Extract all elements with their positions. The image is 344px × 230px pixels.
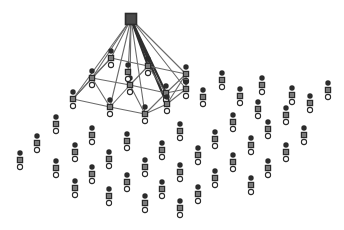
node-open-circle-marker bbox=[70, 103, 75, 108]
node-square-marker bbox=[195, 152, 200, 157]
node-open-circle-marker bbox=[142, 171, 147, 176]
node-open-circle-marker bbox=[125, 76, 130, 81]
node-filled-circle-marker bbox=[230, 112, 235, 117]
node-open-circle-marker bbox=[200, 101, 205, 106]
node-square-marker bbox=[289, 92, 294, 97]
node-open-circle-marker bbox=[145, 70, 150, 75]
cluster-node bbox=[142, 104, 147, 123]
scatter-node bbox=[124, 172, 129, 191]
node-open-circle-marker bbox=[127, 89, 132, 94]
node-square-marker bbox=[127, 82, 132, 87]
scatter-node bbox=[237, 86, 242, 105]
node-filled-circle-marker bbox=[177, 198, 182, 203]
node-square-marker bbox=[124, 138, 129, 143]
scatter-node bbox=[142, 157, 147, 176]
node-square-marker bbox=[124, 179, 129, 184]
cluster-node bbox=[145, 56, 150, 75]
scatter-node bbox=[195, 184, 200, 203]
node-square-marker bbox=[248, 182, 253, 187]
node-filled-circle-marker bbox=[164, 94, 169, 99]
node-filled-circle-marker bbox=[124, 131, 129, 136]
node-filled-circle-marker bbox=[195, 184, 200, 189]
node-square-marker bbox=[89, 171, 94, 176]
node-square-marker bbox=[237, 93, 242, 98]
scatter-node bbox=[219, 70, 224, 89]
node-filled-circle-marker bbox=[307, 93, 312, 98]
node-open-circle-marker bbox=[159, 193, 164, 198]
cluster-node bbox=[183, 79, 188, 98]
node-filled-circle-marker bbox=[248, 135, 253, 140]
node-open-circle-marker bbox=[307, 107, 312, 112]
scatter-node bbox=[230, 112, 235, 131]
node-square-marker bbox=[53, 165, 58, 170]
node-filled-circle-marker bbox=[219, 70, 224, 75]
node-filled-circle-marker bbox=[265, 119, 270, 124]
node-open-circle-marker bbox=[177, 176, 182, 181]
node-open-circle-marker bbox=[325, 94, 330, 99]
node-filled-circle-marker bbox=[259, 75, 264, 80]
scatter-node bbox=[212, 168, 217, 187]
scatter-node bbox=[17, 150, 22, 169]
node-filled-circle-marker bbox=[159, 179, 164, 184]
node-square-marker bbox=[255, 106, 260, 111]
node-square-marker bbox=[89, 132, 94, 137]
node-square-marker bbox=[177, 169, 182, 174]
node-open-circle-marker bbox=[164, 108, 169, 113]
node-filled-circle-marker bbox=[212, 129, 217, 134]
root-square-marker bbox=[126, 14, 137, 25]
node-filled-circle-marker bbox=[106, 149, 111, 154]
node-open-circle-marker bbox=[183, 93, 188, 98]
node-filled-circle-marker bbox=[53, 158, 58, 163]
node-square-marker bbox=[219, 77, 224, 82]
cluster-node bbox=[125, 62, 130, 81]
node-filled-circle-marker bbox=[283, 142, 288, 147]
node-open-circle-marker bbox=[177, 135, 182, 140]
node-square-marker bbox=[325, 87, 330, 92]
scatter-node bbox=[301, 125, 306, 144]
node-open-circle-marker bbox=[212, 143, 217, 148]
node-square-marker bbox=[108, 55, 113, 60]
node-open-circle-marker bbox=[34, 147, 39, 152]
scatter-node bbox=[230, 152, 235, 171]
node-open-circle-marker bbox=[248, 149, 253, 154]
node-square-marker bbox=[283, 149, 288, 154]
node-open-circle-marker bbox=[124, 145, 129, 150]
node-square-marker bbox=[159, 147, 164, 152]
scatter-node bbox=[200, 87, 205, 106]
node-filled-circle-marker bbox=[183, 64, 188, 69]
scatter-node bbox=[177, 162, 182, 181]
node-square-marker bbox=[177, 128, 182, 133]
node-filled-circle-marker bbox=[89, 164, 94, 169]
scatter-node bbox=[106, 186, 111, 205]
scatter-node bbox=[177, 198, 182, 217]
node-filled-circle-marker bbox=[108, 48, 113, 53]
node-open-circle-marker bbox=[89, 139, 94, 144]
node-filled-circle-marker bbox=[283, 105, 288, 110]
node-filled-circle-marker bbox=[142, 157, 147, 162]
node-open-circle-marker bbox=[108, 62, 113, 67]
network-graph-svg bbox=[0, 0, 344, 230]
cluster-node bbox=[107, 97, 112, 116]
node-open-circle-marker bbox=[237, 100, 242, 105]
node-open-circle-marker bbox=[283, 119, 288, 124]
scatter-node bbox=[159, 140, 164, 159]
node-open-circle-marker bbox=[89, 82, 94, 87]
scatter-node bbox=[177, 121, 182, 140]
node-open-circle-marker bbox=[89, 178, 94, 183]
root-node bbox=[126, 14, 137, 25]
scatter-node bbox=[124, 131, 129, 150]
scatter-node bbox=[265, 119, 270, 138]
node-open-circle-marker bbox=[72, 156, 77, 161]
plot-background bbox=[0, 0, 344, 230]
scatter-node bbox=[142, 193, 147, 212]
node-square-marker bbox=[200, 94, 205, 99]
node-square-marker bbox=[164, 101, 169, 106]
node-square-marker bbox=[53, 121, 58, 126]
node-square-marker bbox=[17, 157, 22, 162]
scatter-node bbox=[255, 99, 260, 118]
scatter-node bbox=[159, 179, 164, 198]
node-filled-circle-marker bbox=[145, 56, 150, 61]
node-square-marker bbox=[142, 200, 147, 205]
node-open-circle-marker bbox=[219, 84, 224, 89]
node-square-marker bbox=[159, 186, 164, 191]
